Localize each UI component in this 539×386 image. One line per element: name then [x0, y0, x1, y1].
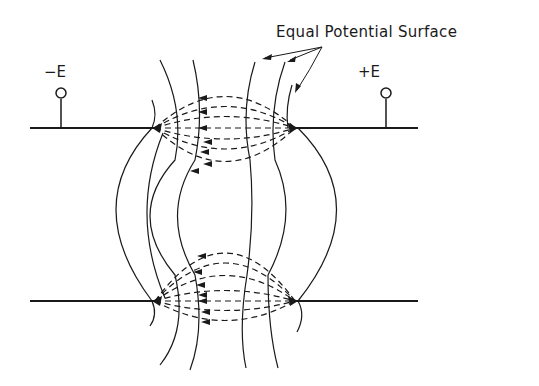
electrode-tips [152, 123, 298, 306]
terminal-negative [56, 88, 66, 128]
label-pointers [265, 47, 322, 90]
equal-potential-surface-label: Equal Potential Surface [276, 23, 457, 41]
diagram-canvas: Equal Potential Surface −E +E [0, 0, 539, 386]
positive-terminal-label: +E [358, 63, 380, 81]
field-diagram [0, 0, 539, 386]
negative-terminal-label: −E [44, 63, 66, 81]
terminal-positive [381, 88, 391, 128]
